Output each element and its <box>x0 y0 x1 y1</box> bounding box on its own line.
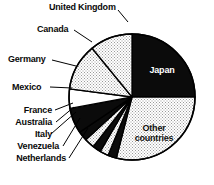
leader-line <box>63 118 80 146</box>
slice-label-venezuela: Venezuela <box>0 141 59 151</box>
slice-label-united-kingdom: United Kingdom <box>49 2 116 12</box>
slice-label-france: France <box>0 105 52 115</box>
leader-line <box>52 60 76 66</box>
leader-line <box>50 87 72 88</box>
slice-label-germany: Germany <box>8 54 46 64</box>
leader-line <box>74 30 92 42</box>
slice-label-australia: Australia <box>0 117 52 127</box>
slice-label-other-countries-line2: countries <box>120 133 188 143</box>
leader-line <box>69 128 88 158</box>
slice-label-mexico: Mexico <box>12 82 41 92</box>
slice-label-canada: Canada <box>37 24 68 34</box>
slice-label-other-countries-line1: Other <box>126 123 182 133</box>
leader-line <box>118 10 128 22</box>
pie-chart-figure: United Kingdom Canada Germany Mexico Fra… <box>0 0 214 185</box>
slice-label-japan: Japan <box>143 65 181 75</box>
slice-label-netherlands: Netherlands <box>0 153 66 163</box>
slice-label-italy: Italy <box>0 129 52 139</box>
